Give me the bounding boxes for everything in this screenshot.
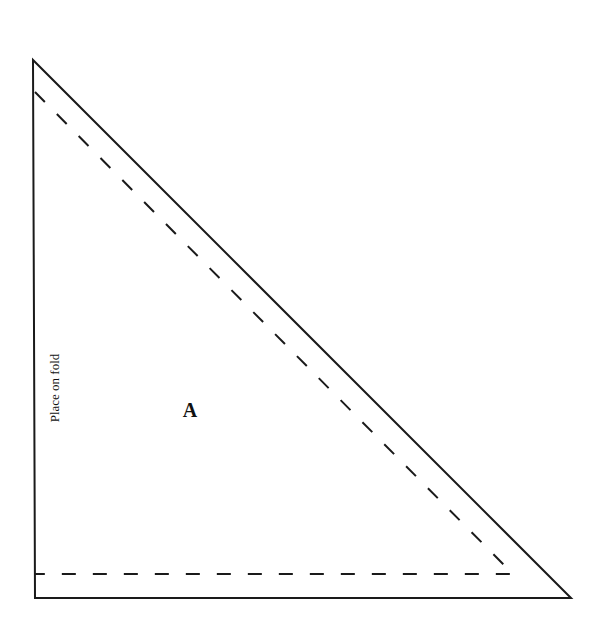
place-on-fold-label: Place on fold — [47, 354, 63, 423]
pattern-piece-diagram — [0, 0, 611, 633]
seam-line — [35, 92, 513, 574]
piece-label: A — [183, 399, 197, 422]
cut-line — [33, 60, 571, 598]
